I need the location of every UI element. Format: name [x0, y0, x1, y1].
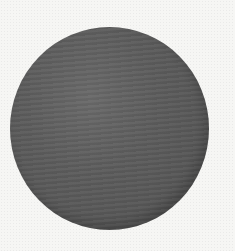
gray-circle	[10, 27, 209, 230]
image-canvas	[0, 0, 235, 251]
